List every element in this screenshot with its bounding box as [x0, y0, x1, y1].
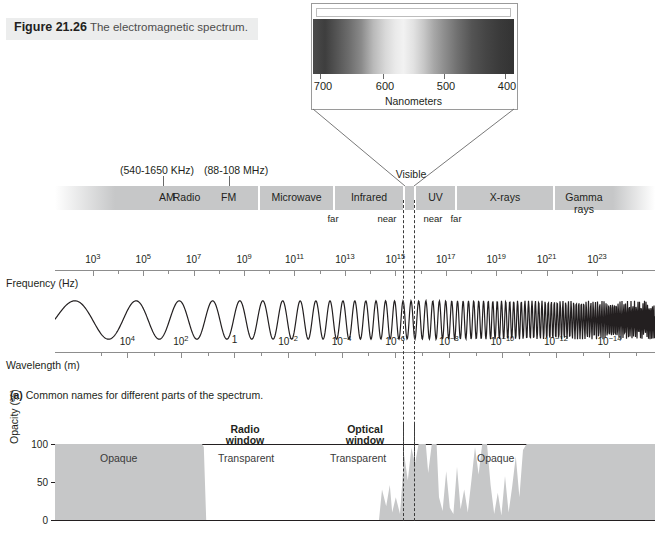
band-segment-xrays: X-rays	[457, 186, 553, 210]
wavelength-minor-tick	[315, 352, 316, 356]
band-label-gamma: Gamma rays	[555, 191, 613, 215]
band-segment-gamma: Gamma rays	[555, 186, 613, 210]
frequency-tick	[496, 270, 497, 276]
sub-band-label-far-uv: far	[436, 213, 476, 224]
wavelength-minor-tick	[101, 352, 102, 356]
wavelength-minor-tick	[261, 352, 262, 356]
optical-window-line2: window	[346, 434, 385, 446]
band-left-fade	[55, 186, 115, 210]
figure-number: Figure 21.26	[14, 20, 87, 34]
frequency-tick	[547, 270, 548, 276]
wavelength-tick	[449, 352, 450, 358]
band-label-xrays: X-rays	[457, 191, 553, 203]
wavelength-tick	[342, 352, 343, 358]
frequency-tick	[446, 270, 447, 276]
frequency-minor-tick	[370, 270, 371, 274]
wavelength-axis-title: Wavelength (m)	[6, 359, 80, 371]
optical-window-dashed-right	[414, 424, 415, 521]
wavelength-tick-label: 104	[105, 334, 149, 347]
frequency-tick-label: 1013	[323, 252, 367, 265]
frequency-axis-line	[55, 270, 655, 271]
opacity-region-label-opaque-right: Opaque	[477, 452, 514, 464]
visible-spectrum-top-strip	[316, 8, 511, 17]
frequency-tick	[143, 270, 144, 276]
opacity-axis-title: Opacity (%)	[8, 389, 20, 444]
figure-caption: Figure 21.26 The electromagnetic spectru…	[14, 20, 248, 34]
frequency-tick	[194, 270, 195, 276]
wavelength-minor-tick	[529, 352, 530, 356]
wavelength-tick-label: 10−14	[587, 334, 631, 347]
part-a-caption: (a) Common names for different parts of …	[10, 389, 263, 401]
band-label-am: AM	[159, 191, 175, 203]
opacity-baseline	[55, 520, 655, 521]
optical-window-label: Optical window	[329, 424, 401, 446]
band-right-fade	[613, 186, 655, 210]
wavelength-tick	[556, 352, 557, 358]
frequency-tick-label: 109	[222, 252, 266, 265]
am-frequency-note: (540-1650 KHz)	[120, 164, 194, 176]
frequency-minor-tick	[320, 270, 321, 274]
spectrum-band: Radio AM FM Microwave Infrared UV X-rays…	[55, 186, 655, 210]
opacity-tick-label-100: 100	[22, 439, 48, 450]
part-a-text: Common names for different parts of the …	[26, 389, 263, 401]
band-segment-microwave: Microwave	[260, 186, 333, 210]
frequency-tick-label: 107	[172, 252, 216, 265]
frequency-minor-tick	[269, 270, 270, 274]
wavelength-tick-label: 10−8	[427, 334, 471, 347]
opacity-tick-label-50: 50	[22, 477, 48, 488]
band-segment-infrared: Infrared	[335, 186, 403, 210]
wavelength-tick-label: 10−12	[534, 334, 578, 347]
band-segment-visible	[405, 186, 414, 210]
wavelength-minor-tick	[368, 352, 369, 356]
frequency-minor-tick	[168, 270, 169, 274]
frequency-tick-label: 1021	[525, 252, 569, 265]
frequency-tick-label: 1017	[424, 252, 468, 265]
wavelength-minor-tick	[583, 352, 584, 356]
wavelength-tick	[127, 352, 128, 358]
wavelength-tick-label: 10−4	[320, 334, 364, 347]
nanometer-tick-label: 600	[365, 80, 405, 92]
opacity-region-label-transparent-optical: Transparent	[330, 452, 386, 464]
nanometer-tick	[320, 74, 321, 79]
wavelength-tick-label: 10−6	[373, 334, 417, 347]
wavelength-minor-tick	[476, 352, 477, 356]
nanometer-tick-label: 700	[303, 80, 343, 92]
band-label-infrared: Infrared	[335, 191, 403, 203]
opacity-region-label-opaque-left: Opaque	[100, 452, 137, 464]
frequency-tick	[395, 270, 396, 276]
band-label-uv: UV	[416, 191, 455, 203]
band-label-fm: FM	[221, 191, 236, 203]
wavelength-tick-label: 10−2	[266, 334, 310, 347]
wavelength-minor-tick	[636, 352, 637, 356]
opacity-tick-0	[51, 520, 55, 521]
band-segment-uv: UV	[416, 186, 455, 210]
frequency-minor-tick	[572, 270, 573, 274]
opacity-region-label-transparent-radio: Transparent	[218, 452, 274, 464]
wavelength-axis-line	[55, 352, 655, 353]
wavelength-tick	[288, 352, 289, 358]
band-label-radio: Radio	[115, 191, 258, 203]
frequency-minor-tick	[521, 270, 522, 274]
visible-band-label: Visible	[381, 168, 441, 180]
wavelength-tick	[395, 352, 396, 358]
wavelength-minor-tick	[422, 352, 423, 356]
wavelength-tick-label: 10−10	[480, 334, 524, 347]
frequency-tick-label: 1023	[575, 252, 619, 265]
frequency-tick-label: 103	[71, 252, 115, 265]
band-label-microwave: Microwave	[260, 191, 333, 203]
wavelength-minor-tick	[154, 352, 155, 356]
frequency-minor-tick	[118, 270, 119, 274]
frequency-tick	[294, 270, 295, 276]
wavelength-tick-label: 1	[212, 334, 256, 345]
wavelength-tick	[234, 352, 235, 358]
wavelength-tick	[181, 352, 182, 358]
wavelength-tick	[502, 352, 503, 358]
band-segment-radio: Radio	[115, 186, 258, 210]
wavelength-tick	[609, 352, 610, 358]
visible-spectrum-gradient	[313, 19, 514, 74]
frequency-tick	[93, 270, 94, 276]
sub-band-label-far-ir: far	[313, 213, 353, 224]
frequency-axis-title: Frequency (Hz)	[6, 277, 78, 289]
frequency-tick-label: 105	[121, 252, 165, 265]
frequency-minor-tick	[622, 270, 623, 274]
